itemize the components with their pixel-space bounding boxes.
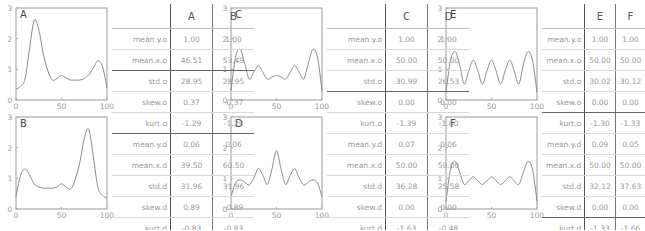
- table-row: std.o28.9528.95: [112, 71, 254, 92]
- plot-b: 0501000123B: [0, 111, 123, 227]
- cell-value: 28.95: [171, 71, 213, 92]
- table-row: mean.x.d50.0050.00: [327, 155, 469, 176]
- table-row: mean.y.o1.001.00: [542, 29, 645, 50]
- cell-value: -1.29: [171, 113, 213, 134]
- plot-frame: [16, 8, 107, 100]
- row-label: skew.o: [327, 92, 386, 113]
- cell-value: 30.99: [386, 71, 428, 92]
- row-label: mean.y.d: [112, 134, 171, 155]
- row-label: mean.x.d: [542, 155, 585, 176]
- row-label: std.o: [112, 71, 171, 92]
- cell-value: 1.00: [386, 29, 428, 50]
- column-header: F: [615, 4, 645, 29]
- row-label: skew.d: [542, 197, 585, 218]
- table-row: skew.o0.000.00: [327, 92, 469, 113]
- x-tick-label: 50: [487, 211, 497, 220]
- table-row: kurt.o-1.29-1.29: [112, 113, 254, 134]
- cell-value: -1.00: [428, 113, 470, 134]
- cell-value: -0.37: [213, 92, 255, 113]
- row-label: mean.x.o: [542, 50, 585, 71]
- column-header: E: [585, 4, 615, 29]
- cell-value: 50.00: [615, 50, 645, 71]
- cell-value: 0.00: [386, 197, 428, 218]
- row-label: mean.x.o: [112, 50, 171, 71]
- header-corner: [327, 4, 386, 29]
- cell-value: 0.00: [428, 197, 470, 218]
- x-tick-label: 50: [57, 102, 67, 111]
- plot-a: 0501000123A: [0, 2, 123, 118]
- row-label: std.d: [112, 176, 171, 197]
- cell-value: -1.66: [615, 218, 645, 231]
- cell-value: 0.00: [615, 197, 645, 218]
- cell-value: 1.00: [213, 29, 255, 50]
- cell-value: 1.00: [585, 29, 615, 50]
- cell-value: 0.37: [171, 92, 213, 113]
- cell-value: 36.28: [386, 176, 428, 197]
- row-label: kurt.d: [112, 218, 171, 231]
- cell-value: 0.05: [615, 134, 645, 155]
- table-row: std.o30.9926.53: [327, 71, 469, 92]
- row-label: kurt.d: [542, 218, 585, 231]
- row-label: skew.d: [112, 197, 171, 218]
- cell-value: 53.49: [213, 50, 255, 71]
- row-label: std.o: [542, 71, 585, 92]
- x-tick-label: 50: [272, 211, 282, 220]
- row-label: std.d: [542, 176, 585, 197]
- table-row: std.d36.2825.58: [327, 176, 469, 197]
- stats-table-ab: ABmean.y.o1.001.00mean.x.o46.5153.49std.…: [112, 4, 254, 230]
- table-row: skew.o0.000.00: [542, 92, 645, 113]
- table-row: std.d32.1237.63: [542, 176, 645, 197]
- cell-value: 0.06: [213, 134, 255, 155]
- row-label: std.o: [327, 71, 386, 92]
- x-tick-label: 50: [57, 211, 67, 220]
- y-tick-label: 1: [8, 65, 13, 74]
- cell-value: 50.00: [386, 50, 428, 71]
- cell-value: 30.12: [615, 71, 645, 92]
- cell-value: 30.02: [585, 71, 615, 92]
- table-row: kurt.d-1.63-0.48: [327, 218, 469, 231]
- column-header: D: [428, 4, 470, 29]
- table-row: std.d31.9631.96: [112, 176, 254, 197]
- cell-value: 50.00: [428, 50, 470, 71]
- table-row: skew.d0.000.00: [542, 197, 645, 218]
- cell-value: -0.83: [171, 218, 213, 231]
- table-row: mean.x.d50.0050.00: [542, 155, 645, 176]
- data-line: [16, 19, 107, 89]
- cell-value: 46.51: [171, 50, 213, 71]
- row-label: kurt.o: [542, 113, 585, 134]
- cell-value: -0.89: [213, 197, 255, 218]
- row-label: mean.y.d: [327, 134, 386, 155]
- cell-value: 31.96: [171, 176, 213, 197]
- cell-value: 50.00: [615, 155, 645, 176]
- row-label: kurt.d: [327, 218, 386, 231]
- table-row: skew.d0.000.00: [327, 197, 469, 218]
- cell-value: -1.33: [585, 218, 615, 231]
- row-label: skew.o: [542, 92, 585, 113]
- y-tick-label: 2: [8, 35, 13, 44]
- table-row: mean.y.d0.070.06: [327, 134, 469, 155]
- table-row: skew.o0.37-0.37: [112, 92, 254, 113]
- row-label: kurt.o: [327, 113, 386, 134]
- table-row: mean.x.o46.5153.49: [112, 50, 254, 71]
- column-header: A: [171, 4, 213, 29]
- cell-value: 60.50: [213, 155, 255, 176]
- row-label: mean.x.d: [112, 155, 171, 176]
- table-row: mean.x.o50.0050.00: [327, 50, 469, 71]
- row-label: kurt.o: [112, 113, 171, 134]
- cell-value: -1.63: [386, 218, 428, 231]
- table-row: mean.y.o1.001.00: [327, 29, 469, 50]
- cell-value: 50.00: [585, 155, 615, 176]
- cell-value: 28.95: [213, 71, 255, 92]
- cell-value: 1.00: [615, 29, 645, 50]
- table-row: skew.d0.89-0.89: [112, 197, 254, 218]
- cell-value: -1.33: [615, 113, 645, 134]
- y-tick-label: 0: [8, 205, 13, 214]
- row-label: mean.y.o: [327, 29, 386, 50]
- cell-value: 26.53: [428, 71, 470, 92]
- table-row: mean.x.o50.0050.00: [542, 50, 645, 71]
- table-row: mean.x.d39.5060.50: [112, 155, 254, 176]
- cell-value: 25.58: [428, 176, 470, 197]
- cell-value: -1.30: [585, 113, 615, 134]
- cell-value: 0.00: [386, 92, 428, 113]
- x-tick-label: 0: [14, 102, 19, 111]
